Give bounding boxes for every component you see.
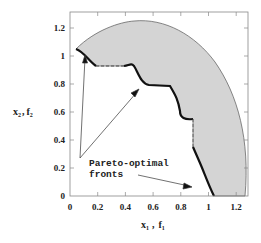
x-tick-label: 0.2 — [92, 202, 104, 212]
y-axis-label: x2,f2 — [13, 106, 33, 118]
y-tick-labels: 0 0.2 0.4 0.6 0.8 1 1.2 — [54, 23, 66, 201]
annotation-line-1: Pareto-optimal — [89, 158, 169, 169]
y-tick-label: 1.2 — [54, 23, 66, 33]
x-tick-label: 1 — [206, 202, 211, 212]
y-tick-label: 0.4 — [54, 135, 66, 145]
annotation-line-2: fronts — [89, 169, 124, 180]
x-tick-label: 0.4 — [120, 202, 132, 212]
x-tick-label: 1.2 — [231, 202, 243, 212]
y-tick-label: 0 — [61, 191, 66, 201]
y-tick-label: 0.8 — [54, 79, 66, 89]
y-tick-label: 0.6 — [54, 107, 66, 117]
y-tick-label: 0.2 — [54, 163, 66, 173]
x-tick-label: 0.8 — [175, 202, 187, 212]
y-tick-label: 1 — [61, 51, 66, 61]
pareto-chart: 0 0.2 0.4 0.6 0.8 1 1.2 0 0.2 0.4 0.6 0.… — [0, 0, 261, 243]
x-tick-label: 0 — [68, 202, 73, 212]
x-tick-labels: 0 0.2 0.4 0.6 0.8 1 1.2 — [68, 202, 243, 212]
x-tick-label: 0.6 — [147, 202, 159, 212]
x-axis-label: x1,f1 — [141, 219, 165, 231]
